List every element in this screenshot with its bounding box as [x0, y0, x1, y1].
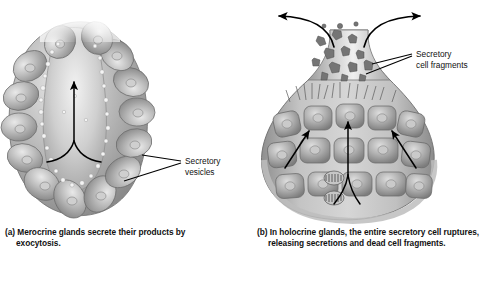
- secretory-cell-fragments-label: Secretory cell fragments: [416, 49, 468, 70]
- holocrine-gland-illustration: [261, 16, 434, 221]
- secretory-cell-fragments-label-line1: Secretory: [416, 49, 468, 60]
- panel-b-caption: (b) In holocrine glands, the entire secr…: [257, 227, 497, 250]
- panel-b-caption-line3: dead cell fragments.: [366, 238, 445, 248]
- panel-b-marker: (b): [257, 227, 267, 237]
- secretory-vesicles-label-line2: vesicles: [185, 167, 221, 178]
- panel-a-caption: (a) Merocrine glands secrete their produ…: [5, 227, 205, 250]
- outflow-arrow-right: [364, 16, 420, 47]
- merocrine-gland-illustration: [0, 12, 181, 224]
- figure-gland-secretion: Secretory vesicles Secretory cell fragme…: [0, 0, 501, 284]
- secretory-cell-fragments-label-line2: cell fragments: [416, 60, 468, 71]
- secretory-vesicles-label: Secretory vesicles: [185, 156, 221, 177]
- outflow-arrow-left: [279, 16, 334, 47]
- merocrine-duct-fade: [40, 12, 120, 42]
- panel-b-caption-line1: In holocrine glands, the entire secretor…: [270, 227, 426, 237]
- secretory-vesicles-label-line1: Secretory: [185, 156, 221, 167]
- panel-a-marker: (a): [5, 227, 15, 237]
- panel-a-caption-line1: Merocrine glands secrete their: [17, 227, 136, 237]
